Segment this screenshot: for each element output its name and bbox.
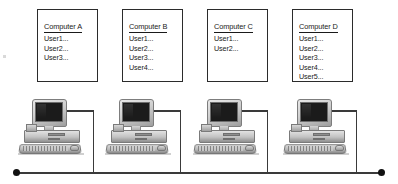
list-item: User2... xyxy=(129,44,177,54)
list-item: User1... xyxy=(129,34,177,44)
drive-bay-icon xyxy=(48,138,60,140)
list-item: User3... xyxy=(129,53,177,63)
drive-bay-icon xyxy=(223,133,240,136)
drive-bay-icon xyxy=(48,133,65,136)
drop-cable-vertical-c xyxy=(267,110,269,173)
list-item: User3... xyxy=(44,53,92,63)
list-item: User2... xyxy=(214,44,262,54)
computer-info-box-b: Computer B User1... User2... User3... Us… xyxy=(122,9,183,82)
drop-cable-vertical-a xyxy=(93,110,95,173)
user-list-b: User1... User2... User3... User4... xyxy=(129,34,177,72)
computer-box-title-a: Computer A xyxy=(44,22,82,33)
user-list-c: User1... User2... xyxy=(214,34,262,53)
mouse-icon xyxy=(70,145,79,151)
bus-terminator-left xyxy=(13,169,20,176)
list-item: User1... xyxy=(44,34,92,44)
list-item: User4... xyxy=(299,63,347,73)
drop-cable-vertical-b xyxy=(180,110,182,173)
computer-box-title-c: Computer C xyxy=(214,22,253,33)
drive-bay-icon xyxy=(313,138,325,140)
drive-bay-icon xyxy=(135,133,152,136)
keyboard-keys xyxy=(23,146,68,151)
computer-box-title-b: Computer B xyxy=(129,22,167,33)
screen-glare xyxy=(212,104,221,118)
computer-icon-a xyxy=(18,99,86,157)
scan-artifact-speck xyxy=(3,55,6,58)
screen-glare xyxy=(37,104,46,118)
computer-box-title-d: Computer D xyxy=(299,22,338,33)
list-item: User2... xyxy=(299,44,347,54)
mouse-icon xyxy=(157,145,166,151)
list-item: User2... xyxy=(44,44,92,54)
mouse-icon xyxy=(245,145,254,151)
screen-glare xyxy=(302,104,311,118)
keyboard-keys xyxy=(288,146,333,151)
drive-bay-icon xyxy=(223,138,235,140)
bus-terminator-right xyxy=(378,169,385,176)
list-item: User3... xyxy=(299,53,347,63)
computer-icon-b xyxy=(105,99,173,157)
drop-cable-vertical-d xyxy=(356,110,358,173)
list-item: User1... xyxy=(299,34,347,44)
keyboard-keys xyxy=(110,146,155,151)
list-item: User1... xyxy=(214,34,262,44)
network-diagram-canvas: Computer A User1... User2... User3... Co… xyxy=(0,0,398,184)
drive-bay-icon xyxy=(313,133,330,136)
list-item: User4... xyxy=(129,63,177,73)
computer-info-box-d: Computer D User1... User2... User3... Us… xyxy=(292,9,353,82)
mini-tower-icon xyxy=(113,124,124,132)
mini-tower-icon xyxy=(201,124,212,132)
mouse-icon xyxy=(335,145,344,151)
drive-bay-icon xyxy=(135,138,147,140)
list-item: User5... xyxy=(299,72,347,82)
computer-icon-c xyxy=(193,99,261,157)
screen-glare xyxy=(124,104,133,118)
mini-tower-icon xyxy=(291,124,302,132)
user-list-a: User1... User2... User3... xyxy=(44,34,92,63)
user-list-d: User1... User2... User3... User4... User… xyxy=(299,34,347,82)
computer-info-box-c: Computer C User1... User2... xyxy=(207,9,268,82)
computer-icon-d xyxy=(283,99,351,157)
network-bus-backbone xyxy=(18,172,382,174)
computer-info-box-a: Computer A User1... User2... User3... xyxy=(37,9,98,82)
mini-tower-icon xyxy=(26,124,37,132)
keyboard-keys xyxy=(198,146,243,151)
